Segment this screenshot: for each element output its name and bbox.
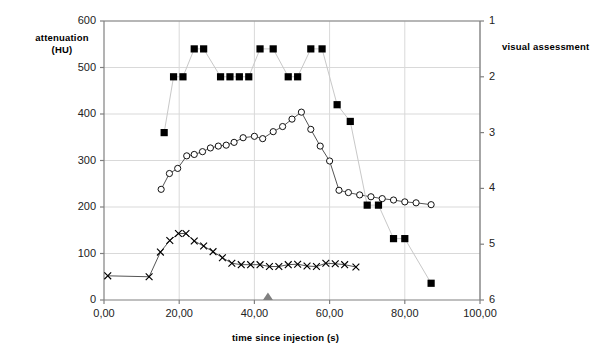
datapoint-square bbox=[390, 235, 397, 242]
datapoint-square bbox=[245, 73, 252, 80]
datapoint-circle bbox=[428, 202, 434, 208]
right-tick-label: 4 bbox=[489, 181, 519, 193]
datapoint-circle bbox=[379, 196, 385, 202]
datapoint-circle bbox=[327, 158, 333, 164]
datapoint-circle bbox=[402, 199, 408, 205]
series-line-cross bbox=[108, 234, 356, 277]
y-axis-right-title: visual assessment bbox=[502, 41, 589, 52]
datapoint-square bbox=[161, 129, 168, 136]
series-line-circle-open bbox=[161, 112, 431, 205]
left-tick-label: 500 bbox=[50, 61, 96, 73]
datapoint-circle bbox=[368, 194, 374, 200]
datapoint-circle bbox=[191, 151, 197, 157]
datapoint-circle bbox=[280, 123, 286, 129]
datapoint-circle bbox=[345, 189, 351, 195]
datapoint-circle bbox=[158, 186, 164, 192]
datapoint-square bbox=[401, 235, 408, 242]
x-axis-title: time since injection (s) bbox=[232, 332, 339, 343]
right-tick-label: 2 bbox=[489, 70, 519, 82]
datapoint-cross bbox=[166, 237, 173, 244]
bottom-tick-label: 20,00 bbox=[139, 307, 219, 319]
datapoint-square bbox=[318, 45, 325, 52]
right-tick-label: 1 bbox=[489, 14, 519, 26]
datapoint-cross bbox=[200, 243, 207, 250]
datapoint-circle bbox=[215, 143, 221, 149]
datapoint-square bbox=[170, 73, 177, 80]
datapoint-circle bbox=[166, 170, 172, 176]
datapoint-square bbox=[364, 202, 371, 209]
datapoint-square bbox=[375, 202, 382, 209]
bottom-tick-label: 100,00 bbox=[440, 307, 520, 319]
datapoint-square bbox=[334, 101, 341, 108]
datapoint-circle bbox=[413, 200, 419, 206]
right-tick-label: 5 bbox=[489, 237, 519, 249]
datapoint-cross bbox=[210, 248, 217, 255]
datapoint-cross bbox=[157, 249, 164, 256]
left-tick-label: 300 bbox=[50, 154, 96, 166]
datapoint-circle bbox=[308, 126, 314, 132]
bottom-tick-label: 80,00 bbox=[365, 307, 445, 319]
datapoint-square bbox=[226, 73, 233, 80]
datapoint-square bbox=[294, 73, 301, 80]
datapoint-circle bbox=[357, 192, 363, 198]
y-axis-left-title-line2: (HU) bbox=[22, 44, 102, 56]
datapoint-square bbox=[217, 73, 224, 80]
y-axis-left-title: attenuation (HU) bbox=[22, 32, 102, 56]
right-tick-label: 3 bbox=[489, 126, 519, 138]
datapoint-circle bbox=[240, 135, 246, 141]
y-axis-left-title-line1: attenuation bbox=[22, 32, 102, 44]
datapoint-circle bbox=[251, 133, 257, 139]
left-tick-label: 0 bbox=[50, 293, 96, 305]
datapoint-circle bbox=[184, 153, 190, 159]
left-tick-label: 200 bbox=[50, 200, 96, 212]
datapoint-circle bbox=[289, 116, 295, 122]
datapoint-circle bbox=[175, 165, 181, 171]
datapoint-square bbox=[307, 45, 314, 52]
injection-marker-triangle bbox=[263, 293, 273, 301]
chart-figure: attenuation (HU) visual assessment time … bbox=[0, 0, 607, 357]
bottom-tick-label: 40,00 bbox=[214, 307, 294, 319]
left-tick-label: 400 bbox=[50, 107, 96, 119]
datapoint-circle bbox=[270, 129, 276, 135]
datapoint-circle bbox=[231, 139, 237, 145]
bottom-tick-label: 60,00 bbox=[290, 307, 370, 319]
figure-root: attenuation (HU) visual assessment time … bbox=[0, 0, 607, 357]
datapoint-square bbox=[236, 73, 243, 80]
datapoint-circle bbox=[260, 136, 266, 142]
figure-caption bbox=[2, 348, 602, 357]
datapoint-square bbox=[191, 45, 198, 52]
datapoint-square bbox=[428, 280, 435, 287]
right-tick-label: 6 bbox=[489, 293, 519, 305]
datapoint-square bbox=[256, 45, 263, 52]
datapoint-circle bbox=[336, 187, 342, 193]
datapoint-square bbox=[179, 73, 186, 80]
datapoint-circle bbox=[207, 145, 213, 151]
datapoint-square bbox=[347, 118, 354, 125]
datapoint-circle bbox=[390, 197, 396, 203]
left-tick-label: 600 bbox=[50, 14, 96, 26]
datapoint-cross bbox=[219, 254, 226, 261]
datapoint-square bbox=[285, 73, 292, 80]
bottom-tick-label: 0,00 bbox=[64, 307, 144, 319]
datapoint-cross bbox=[191, 238, 198, 245]
datapoint-circle bbox=[298, 109, 304, 115]
series-line-square-filled bbox=[164, 49, 431, 283]
datapoint-square bbox=[200, 45, 207, 52]
left-tick-label: 100 bbox=[50, 247, 96, 259]
datapoint-circle bbox=[223, 142, 229, 148]
datapoint-circle bbox=[317, 143, 323, 149]
datapoint-circle bbox=[199, 149, 205, 155]
datapoint-square bbox=[270, 45, 277, 52]
